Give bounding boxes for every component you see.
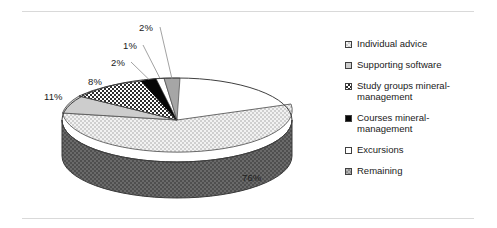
data-label-individual-advice: 76%	[242, 172, 261, 183]
data-label-excursions: 1%	[123, 40, 137, 51]
legend-swatch-dark-checker-icon	[345, 83, 352, 90]
legend-label-individual-advice: Individual advice	[357, 38, 427, 49]
leader-line-excursions	[143, 45, 160, 78]
pie-chart-figure: 76% 11% 8% 2% 1% 2% Individual advice Su…	[0, 0, 497, 228]
legend-item-remaining: Remaining	[345, 165, 495, 176]
legend-label-supporting-software: Supporting software	[357, 59, 442, 70]
legend-item-individual-advice: Individual advice	[345, 38, 495, 49]
legend-label-study-groups: Study groups mineral- management	[357, 80, 450, 102]
legend-swatch-light-checker-icon	[345, 41, 352, 48]
pie-graphic	[0, 0, 330, 228]
legend-item-courses: Courses mineral- management	[345, 112, 495, 134]
leader-line-courses	[131, 62, 149, 80]
legend-swatch-light-gray-icon	[345, 62, 352, 69]
legend-label-excursions: Excursions	[357, 144, 403, 155]
leader-line-remaining	[160, 27, 172, 79]
legend-swatch-white-icon	[345, 147, 352, 154]
legend-label-courses: Courses mineral- management	[357, 112, 429, 134]
legend-swatch-solid-black-icon	[345, 115, 352, 122]
legend-item-study-groups: Study groups mineral- management	[345, 80, 495, 102]
pie-top-face	[62, 78, 292, 162]
data-label-remaining: 2%	[139, 22, 153, 33]
leader-lines	[131, 27, 172, 80]
data-label-study-groups: 8%	[88, 76, 102, 87]
data-label-courses: 2%	[111, 57, 125, 68]
data-label-supporting-software: 11%	[44, 91, 63, 102]
legend-label-remaining: Remaining	[357, 165, 402, 176]
plot-area: 76% 11% 8% 2% 1% 2%	[0, 0, 330, 228]
chart-legend: Individual advice Supporting software St…	[345, 38, 495, 186]
legend-item-excursions: Excursions	[345, 144, 495, 155]
legend-item-supporting-software: Supporting software	[345, 59, 495, 70]
legend-swatch-mid-gray-icon	[345, 168, 352, 175]
